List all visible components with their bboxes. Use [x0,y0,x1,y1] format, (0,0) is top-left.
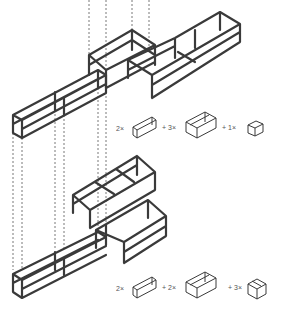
count-label: 2× [168,284,176,291]
upper-configuration [13,12,240,138]
cube-module-icon [248,279,266,299]
long-shelf-module-icon [133,277,156,298]
lower-legend: 2× + 2× + 3× [116,272,266,299]
count-label: 3× [234,284,242,291]
count-label: 1× [228,124,236,131]
plus-sign: + [222,124,226,131]
wide-shelf-module-icon [186,272,216,298]
plus-sign: + [162,124,166,131]
alignment-guides [13,0,149,270]
count-label: 2× [116,125,124,132]
count-label: 3× [168,124,176,131]
count-label: 2× [116,285,124,292]
upper-legend: 2× + 3× + 1× [116,112,263,138]
modular-shelving-diagram: 2× + 3× + 1× 2× + 2× + 3× [0,0,282,309]
plus-sign: + [228,284,232,291]
plus-sign: + [162,284,166,291]
small-cube-module-icon [248,121,263,136]
wide-shelf-module-icon [186,112,216,138]
lower-configuration [13,156,166,298]
long-shelf-module-icon [133,117,156,138]
